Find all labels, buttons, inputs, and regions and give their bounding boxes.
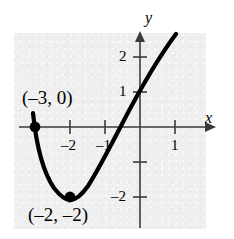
annotation-x-intercept: (–3, 0): [22, 88, 73, 107]
x-tick-label--2: –2: [61, 138, 76, 153]
point-x-intercept: [30, 122, 41, 133]
y-tick-label--2: –2: [111, 189, 126, 204]
y-axis: [135, 31, 145, 228]
x-axis-label: x: [205, 110, 212, 126]
y-tick-label-1: 1: [119, 84, 127, 99]
y-axis-label: y: [145, 10, 152, 26]
x-tick-label-1: 1: [171, 138, 179, 153]
y-tick-label-2: 2: [119, 49, 127, 64]
point-vertex: [65, 192, 76, 203]
parabola-curve: [33, 34, 176, 200]
y-axis-arrowhead: [135, 31, 145, 42]
x-tick-label--1: –1: [96, 138, 111, 153]
graph-figure: x y –2 –1 1 2 1 –2 (–3, 0) (–2, –2): [0, 0, 234, 239]
annotation-vertex: (–2, –2): [28, 205, 88, 224]
